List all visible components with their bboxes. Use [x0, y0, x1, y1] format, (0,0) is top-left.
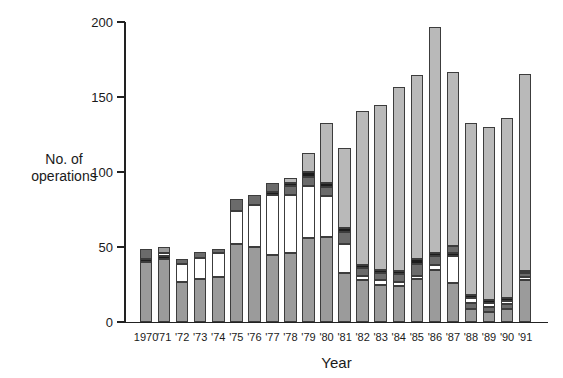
bar-segment-gray — [501, 309, 514, 323]
bar-72 — [176, 259, 189, 322]
bar-segment-light — [320, 123, 333, 183]
bar-segment-white — [447, 256, 460, 283]
bar-segment-dark — [447, 246, 460, 254]
bar-segment-gray — [230, 244, 243, 322]
bar-segment-gray — [465, 309, 478, 323]
bar-segment-white — [302, 186, 315, 239]
bar-segment-white — [248, 205, 261, 247]
bar-88 — [465, 123, 478, 323]
y-axis-tick — [117, 21, 125, 23]
bar-segment-dark — [356, 268, 369, 276]
chart-container: No. of operations 0501001502001970'71'72… — [0, 0, 563, 378]
y-axis-tick-label: 100 — [63, 165, 113, 180]
bar-segment-gray — [393, 286, 406, 322]
bar-segment-gray — [320, 237, 333, 323]
bar-90 — [501, 118, 514, 322]
bar-segment-dark — [248, 195, 261, 206]
plot-area: 0501001502001970'71'72'73'74'75'76'77'78… — [0, 0, 563, 378]
bar-segment-white — [194, 258, 207, 279]
bar-73 — [194, 252, 207, 323]
bar-91 — [519, 75, 532, 323]
bar-segment-dark — [320, 187, 333, 196]
y-axis-tick-label: 200 — [63, 15, 113, 30]
bar-segment-light — [338, 148, 351, 228]
bar-segment-gray — [212, 277, 225, 322]
bar-segment-dark — [302, 177, 315, 186]
bar-77 — [266, 183, 279, 323]
bar-segment-light — [411, 75, 424, 260]
bar-segment-light — [302, 153, 315, 173]
bar-segment-light — [465, 123, 478, 296]
bar-89 — [483, 127, 496, 322]
bar-segment-light — [519, 74, 532, 271]
bar-segment-dark — [230, 199, 243, 211]
bar-74 — [212, 249, 225, 323]
bar-segment-light — [447, 72, 460, 246]
bar-segment-gray — [429, 270, 442, 323]
bar-segment-dark — [266, 183, 279, 192]
bar-segment-light — [356, 111, 369, 266]
bar-78 — [284, 178, 297, 322]
x-axis-tick-label: '91 — [505, 331, 545, 343]
bar-segment-white — [284, 195, 297, 254]
bar-1970 — [140, 249, 153, 323]
bar-segment-white — [176, 264, 189, 282]
y-axis-tick — [117, 96, 125, 98]
y-axis-tick-label: 0 — [63, 315, 113, 330]
y-axis-tick — [117, 246, 125, 248]
bar-segment-gray — [374, 285, 387, 323]
bar-segment-white — [338, 244, 351, 273]
bar-segment-dark — [338, 232, 351, 244]
x-axis-title: Year — [125, 354, 548, 371]
bar-segment-white — [320, 196, 333, 237]
bar-segment-dark — [393, 274, 406, 282]
bar-segment-dark — [374, 273, 387, 281]
bar-segment-gray — [519, 280, 532, 322]
bar-segment-dark — [140, 249, 153, 260]
bar-segment-light — [429, 27, 442, 254]
bar-segment-gray — [356, 280, 369, 322]
bar-76 — [248, 195, 261, 323]
bar-82 — [356, 111, 369, 323]
bar-segment-gray — [483, 312, 496, 323]
bar-segment-gray — [140, 262, 153, 322]
bar-segment-dark — [411, 264, 424, 276]
bar-75 — [230, 199, 243, 322]
bar-segment-gray — [176, 282, 189, 323]
bar-segment-gray — [411, 279, 424, 323]
y-axis-tick-label: 50 — [63, 240, 113, 255]
y-axis-tick — [117, 171, 125, 173]
y-axis-tick — [117, 321, 125, 323]
bar-segment-dark — [429, 256, 442, 265]
bar-segment-gray — [284, 253, 297, 322]
bar-segment-gray — [194, 279, 207, 323]
bar-segment-gray — [248, 247, 261, 322]
y-axis-tick-label: 150 — [63, 90, 113, 105]
bar-segment-light — [501, 118, 514, 298]
bar-segment-dark — [284, 186, 297, 195]
bar-segment-light — [393, 87, 406, 272]
bar-segment-gray — [302, 238, 315, 322]
bar-83 — [374, 105, 387, 323]
bar-81 — [338, 148, 351, 322]
bar-segment-gray — [338, 273, 351, 323]
bar-segment-light — [483, 127, 496, 300]
bar-segment-white — [230, 211, 243, 244]
bar-segment-white — [212, 253, 225, 277]
bar-segment-gray — [447, 283, 460, 322]
bar-segment-gray — [158, 259, 171, 322]
bar-segment-light — [374, 105, 387, 270]
bar-segment-white — [266, 195, 279, 255]
bar-85 — [411, 75, 424, 323]
bar-80 — [320, 123, 333, 323]
bar-87 — [447, 72, 460, 323]
bar-84 — [393, 87, 406, 323]
bar-79 — [302, 153, 315, 323]
bar-71 — [158, 247, 171, 322]
bar-86 — [429, 27, 442, 323]
bar-segment-gray — [266, 255, 279, 323]
